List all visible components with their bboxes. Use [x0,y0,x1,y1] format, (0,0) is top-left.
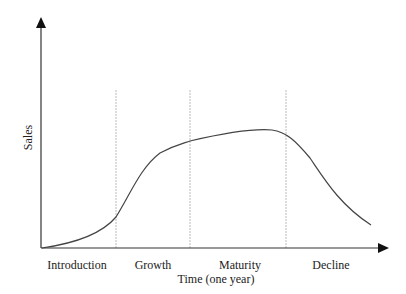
x-axis-label: Time (one year) [178,272,255,287]
stage-label-maturity: Maturity [219,258,261,273]
sales-curve [42,130,371,248]
x-axis-arrow-icon [378,243,389,253]
y-axis-arrow-icon [36,17,46,28]
y-axis-label: Sales [21,125,36,150]
stage-label-decline: Decline [312,258,349,273]
stage-label-introduction: Introduction [47,258,106,273]
product-life-cycle-chart [0,0,406,294]
stage-label-growth: Growth [135,258,172,273]
